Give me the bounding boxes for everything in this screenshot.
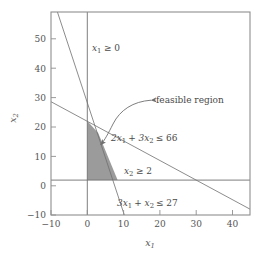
annotation-c1-c: ≤ 66	[156, 133, 178, 143]
x-tick-label-0: 0	[84, 219, 90, 229]
annotation-c2-sub2: 2	[150, 202, 154, 210]
y-tick-label-30: 30	[35, 93, 47, 103]
figure-linear-program-feasible-region: 50 40 30 20 10 0 −10 −10 0 10 20 30 40 x…	[0, 0, 262, 257]
x-axis-title: x1	[145, 237, 155, 250]
x-tick-label-30: 30	[190, 219, 202, 229]
x-tick-label-10: 10	[118, 219, 130, 229]
x-tick-label-40: 40	[227, 219, 239, 229]
annotation-c1-a: 2x	[110, 133, 122, 143]
annotation-c1-sub1: 1	[122, 137, 126, 145]
x-axis-tick-labels: −10 0 10 20 30 40	[42, 219, 239, 229]
y-tick-label-20: 20	[35, 122, 47, 132]
annotation-c1-sub2: 2	[149, 137, 153, 145]
annotation-feasible-region: feasible region	[156, 95, 224, 105]
x-tick-label-minus10: −10	[42, 219, 61, 229]
annotation-c2-sub1: 1	[128, 202, 132, 210]
y-axis-title-sub: 2	[12, 113, 20, 118]
plot-svg: 50 40 30 20 10 0 −10 −10 0 10 20 30 40 x…	[0, 0, 262, 257]
annotation-x1-sub: 1	[97, 47, 101, 55]
x-axis-title-sub: 1	[151, 242, 155, 250]
annotation-c2-b: + x	[134, 198, 149, 208]
y-tick-label-0: 0	[40, 181, 46, 191]
x-tick-label-20: 20	[154, 219, 166, 229]
annotation-c2-a: 3x	[117, 198, 128, 208]
y-axis-title: x2	[7, 113, 20, 123]
annotation-c2-c: ≤ 27	[156, 198, 178, 208]
y-tick-label-10: 10	[35, 152, 47, 162]
annotation-x2-rel: ≥ 2	[136, 166, 152, 176]
y-tick-label-40: 40	[35, 64, 47, 74]
y-tick-label-50: 50	[35, 34, 47, 44]
annotation-c1-b: + 3x	[128, 133, 149, 143]
plot-area-background	[51, 12, 250, 215]
annotation-x1-rel: ≥ 0	[104, 43, 120, 53]
y-axis-tick-labels: 50 40 30 20 10 0 −10	[27, 34, 46, 220]
annotation-x2-sub: 2	[129, 170, 133, 178]
